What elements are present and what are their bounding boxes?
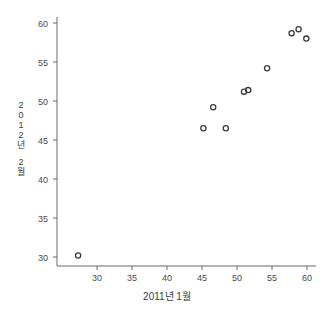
y-tick-label: 40 (38, 175, 48, 185)
x-tick-label: 30 (92, 273, 102, 283)
y-tick-label: 35 (38, 214, 48, 224)
y-axis-label-char: 년 (12, 140, 30, 150)
y-axis-label-char: 2 (12, 157, 30, 167)
x-tick-label: 55 (267, 273, 277, 283)
x-tick-label: 50 (232, 273, 242, 283)
x-axis-label: 2011년 1월 (0, 288, 334, 303)
y-tick-label: 30 (38, 253, 48, 263)
x-tick-label: 60 (302, 273, 312, 283)
y-tick-label: 60 (38, 19, 48, 29)
y-axis-label-spacer (12, 150, 30, 157)
y-tick-label: 50 (38, 97, 48, 107)
y-axis-label-char: 1 (12, 120, 30, 130)
chart-canvas: 30354045505560 30354045505560 (0, 0, 334, 319)
y-axis-label: 2 0 1 2 년 2 월 (12, 100, 30, 177)
x-tick-label: 40 (162, 273, 172, 283)
y-axis-label-char: 2 (12, 100, 30, 110)
scatter-plot-figure: 30354045505560 30354045505560 2 0 1 2 년 … (0, 0, 334, 319)
x-tick-label: 45 (197, 273, 207, 283)
y-axis-label-char: 0 (12, 110, 30, 120)
y-tick-label: 45 (38, 136, 48, 146)
x-tick-label: 35 (127, 273, 137, 283)
plot-background (0, 0, 334, 319)
y-axis-label-char: 2 (12, 130, 30, 140)
y-tick-label: 55 (38, 58, 48, 68)
y-axis-label-char: 월 (12, 167, 30, 177)
